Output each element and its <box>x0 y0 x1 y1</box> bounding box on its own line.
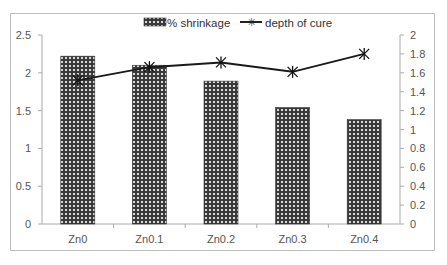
left-axis-tick: 0.5 <box>16 180 31 192</box>
left-axis-tick: 0 <box>25 218 31 230</box>
left-axis-tick: 2.5 <box>16 29 31 41</box>
bar <box>347 120 381 224</box>
right-axis-tick: 0.2 <box>410 199 425 211</box>
right-axis-tick: 1 <box>410 124 416 136</box>
right-axis-tick: 0.4 <box>410 180 425 192</box>
bar-series-shrinkage <box>61 56 381 224</box>
legend-label-depth-of-cure: depth of cure <box>265 17 332 29</box>
left-axis-tick: 2 <box>25 67 31 79</box>
x-axis-tick: Zn0.3 <box>279 233 307 245</box>
right-axis: 00.20.40.60.811.21.41.61.82 <box>400 29 425 230</box>
x-axis-tick: Zn0.2 <box>207 233 235 245</box>
left-axis-tick: 1.5 <box>16 105 31 117</box>
right-axis-tick: 0 <box>410 218 416 230</box>
right-axis-tick: 0.8 <box>410 142 425 154</box>
x-axis-labels: Zn0Zn0.1Zn0.2Zn0.3Zn0.4 <box>68 224 378 245</box>
right-axis-tick: 1.6 <box>410 67 425 79</box>
left-axis-tick: 1 <box>25 142 31 154</box>
bar <box>204 81 238 224</box>
x-axis-tick: Zn0 <box>68 233 87 245</box>
legend: % shrinkage ✳ depth of cure <box>144 16 332 29</box>
bar <box>132 65 166 224</box>
right-axis-tick: 1.8 <box>410 48 425 60</box>
right-axis-tick: 1.4 <box>410 86 425 98</box>
legend-label-shrinkage: % shrinkage <box>167 17 230 29</box>
combo-chart: 00.511.522.5 00.20.40.60.811.21.41.61.82… <box>0 0 447 265</box>
legend-asterisk-icon: ✳ <box>247 16 256 28</box>
x-axis-tick: Zn0.1 <box>135 233 163 245</box>
line-series-depth-of-cure <box>73 48 369 86</box>
right-axis-tick: 2 <box>410 29 416 41</box>
legend-bar-swatch <box>144 18 166 26</box>
right-axis-tick: 0.6 <box>410 161 425 173</box>
x-axis-tick: Zn0.4 <box>350 233 378 245</box>
right-axis-tick: 1.2 <box>410 105 425 117</box>
bar <box>276 108 310 224</box>
